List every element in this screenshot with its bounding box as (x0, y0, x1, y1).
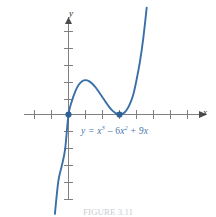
y-axis-label: y (69, 9, 73, 18)
point-local-minimum (116, 111, 122, 117)
x-axis-label: x (203, 108, 207, 117)
y-axis-group (64, 17, 73, 200)
figure-container: y x y = x3 – 6x2 + 9x FIGURE 3.11 (0, 0, 216, 217)
equation-term1-exponent: 3 (102, 124, 105, 131)
equation-term3: 9x (139, 126, 148, 136)
figure-caption: FIGURE 3.11 (0, 208, 216, 217)
equation-operator-minus: – (108, 126, 113, 136)
y-axis-arrowhead (65, 17, 72, 24)
cubic-function-plot (0, 0, 216, 217)
equation-term2-exponent: 2 (125, 124, 128, 131)
equation-operator-plus: + (131, 126, 137, 136)
equation-lhs: y = (81, 126, 95, 136)
point-origin-root (65, 111, 71, 117)
equation-label: y = x3 – 6x2 + 9x (81, 127, 148, 137)
x-axis-group (24, 110, 207, 119)
